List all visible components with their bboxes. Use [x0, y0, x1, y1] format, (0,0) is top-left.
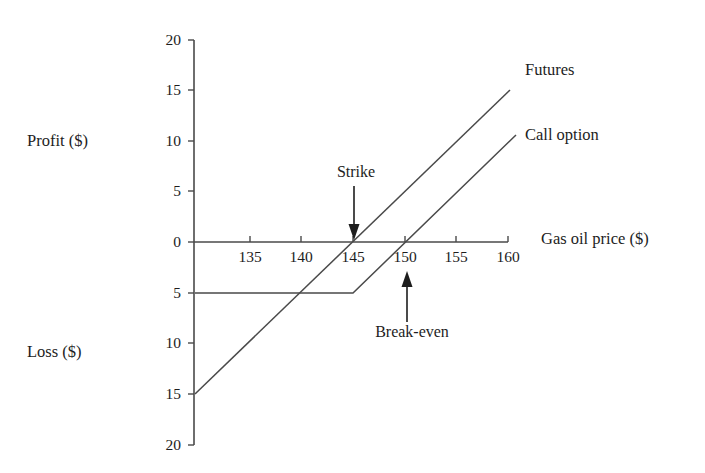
- series-label-futures: Futures: [525, 62, 575, 79]
- x-tick-label-160: 160: [496, 249, 519, 265]
- x-axis-title: Gas oil price ($): [541, 231, 649, 248]
- y-axis-title-loss: Loss ($): [27, 344, 82, 361]
- series-label-call-option: Call option: [525, 127, 599, 144]
- y-tick-label-0: 0: [173, 234, 181, 250]
- y-axis: [188, 40, 194, 445]
- y-tick-label-5-loss: 5: [173, 285, 181, 301]
- x-tick-label-140: 140: [289, 249, 312, 265]
- annotation-label-break-even: Break-even: [375, 324, 449, 340]
- annotation-label-strike: Strike: [337, 164, 375, 180]
- strike-arrow-icon: [349, 186, 360, 240]
- x-tick-label-155: 155: [444, 249, 467, 265]
- y-axis-title-profit: Profit ($): [27, 133, 88, 150]
- x-axis: [194, 236, 508, 242]
- y-tick-label-5-profit: 5: [173, 183, 181, 199]
- y-tick-label-20-loss: 20: [166, 437, 182, 453]
- x-tick-label-135: 135: [238, 249, 261, 265]
- y-tick-label-15-profit: 15: [166, 82, 182, 98]
- series-line-call-option: [195, 135, 516, 293]
- chart-figure: 20 15 10 5 0 5 10 15 20 135 140 145 150 …: [0, 0, 705, 473]
- y-tick-label-20-profit: 20: [166, 32, 182, 48]
- y-tick-label-10-loss: 10: [166, 335, 182, 351]
- x-tick-label-150: 150: [393, 249, 416, 265]
- y-tick-label-10-profit: 10: [166, 133, 182, 149]
- y-tick-label-15-loss: 15: [166, 386, 182, 402]
- break-even-arrow-icon: [402, 271, 413, 322]
- x-tick-label-145: 145: [341, 249, 364, 265]
